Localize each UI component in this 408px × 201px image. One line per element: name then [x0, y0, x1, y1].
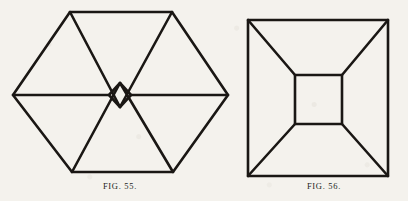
figure-55-block: FIG. 55. — [0, 0, 240, 201]
figure-55-caption: FIG. 55. — [0, 181, 240, 191]
inner-square — [295, 75, 342, 124]
corner-diagonal-bottom-right — [342, 124, 388, 176]
corner-diagonal-top-right — [342, 20, 388, 75]
corner-diagonal-bottom-left — [248, 124, 295, 176]
figure-56-drawing — [240, 0, 408, 181]
page-canvas: FIG. 55. FIG. 56. — [0, 0, 408, 201]
corner-diagonal-top-left — [248, 20, 295, 75]
figure-55-drawing — [0, 0, 240, 181]
hexagon-outline — [13, 12, 228, 172]
figure-56-caption: FIG. 56. — [240, 181, 408, 191]
hexagon-lower-right-diagonal — [120, 83, 173, 172]
hexagon-lower-left-diagonal — [72, 83, 120, 172]
figure-56-block: FIG. 56. — [240, 0, 408, 201]
